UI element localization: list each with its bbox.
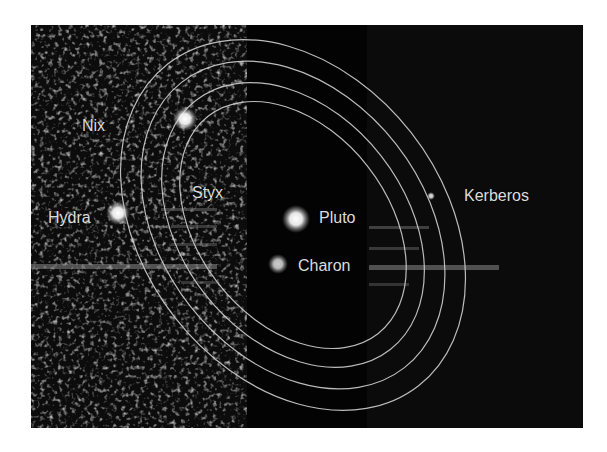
pluto-body	[282, 205, 310, 233]
hydra-label: Hydra	[48, 210, 91, 226]
orbits-overlay	[31, 25, 583, 428]
kerberos-body	[427, 192, 435, 200]
charon-label: Charon	[298, 258, 350, 274]
nix-label: Nix	[82, 118, 105, 134]
streaks-right	[369, 226, 499, 286]
charon-body	[268, 254, 288, 274]
styx-label: Styx	[192, 185, 223, 201]
pluto-system-image: Nix Styx Hydra Pluto Charon Kerberos	[31, 25, 583, 428]
kerberos-label: Kerberos	[464, 188, 529, 204]
pluto-label: Pluto	[319, 210, 355, 226]
nix-body	[173, 107, 197, 131]
hydra-body	[106, 201, 130, 225]
styx-body	[175, 175, 181, 181]
